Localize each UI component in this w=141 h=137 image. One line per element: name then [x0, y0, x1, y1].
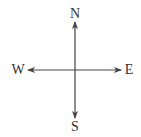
- east-label: E: [125, 63, 134, 77]
- south-label: S: [71, 120, 79, 134]
- compass-rose: N S W E: [0, 0, 141, 137]
- north-label: N: [70, 7, 80, 21]
- west-label: W: [11, 63, 24, 77]
